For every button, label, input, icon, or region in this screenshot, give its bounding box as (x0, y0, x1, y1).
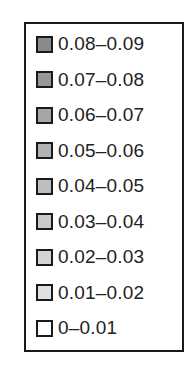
legend-label: 0.02–0.03 (58, 246, 144, 268)
legend-label: 0.06–0.07 (58, 104, 144, 126)
legend-swatch (36, 36, 53, 53)
legend-label: 0.05–0.06 (58, 140, 144, 162)
legend-label: 0.01–0.02 (58, 282, 144, 304)
legend-swatch (36, 71, 53, 88)
legend-item: 0.06–0.07 (36, 103, 144, 127)
legend-item: 0.07–0.08 (36, 68, 144, 92)
legend-label: 0.04–0.05 (58, 175, 144, 197)
legend-label: 0.03–0.04 (58, 211, 144, 233)
legend-item: 0.05–0.06 (36, 139, 144, 163)
legend-label: 0–0.01 (58, 317, 117, 339)
legend-item: 0.02–0.03 (36, 245, 144, 269)
legend-item: 0.01–0.02 (36, 281, 144, 305)
legend-swatch (36, 213, 53, 230)
legend-label: 0.08–0.09 (58, 33, 144, 55)
legend-swatch (36, 249, 53, 266)
legend-item: 0.04–0.05 (36, 174, 144, 198)
legend-box: 0.08–0.090.07–0.080.06–0.070.05–0.060.04… (24, 22, 184, 352)
legend-label: 0.07–0.08 (58, 69, 144, 91)
legend-item: 0.08–0.09 (36, 32, 144, 56)
legend-swatch (36, 107, 53, 124)
legend-swatch (36, 320, 53, 337)
legend-swatch (36, 284, 53, 301)
legend-swatch (36, 178, 53, 195)
legend-swatch (36, 142, 53, 159)
legend-item: 0.03–0.04 (36, 210, 144, 234)
legend-item: 0–0.01 (36, 316, 117, 340)
